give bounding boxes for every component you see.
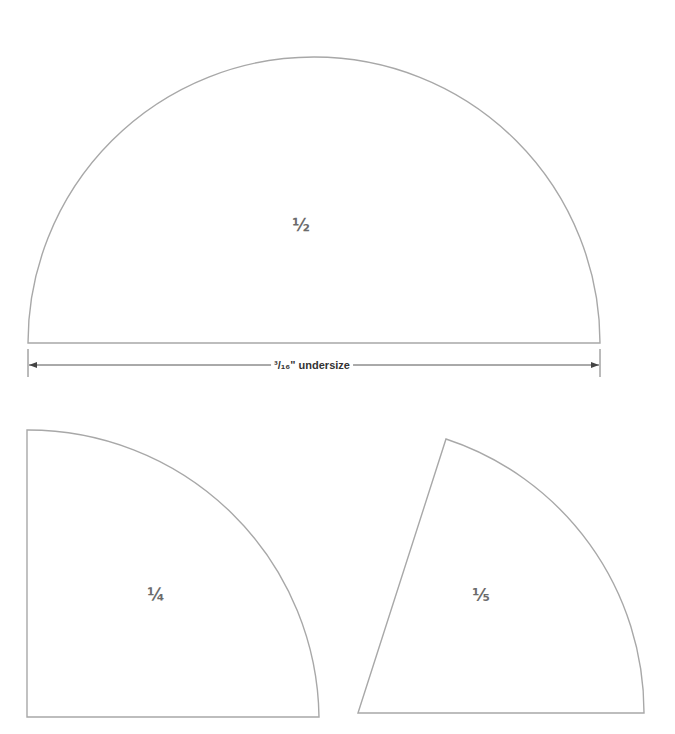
undersize-dimension-label: ³/₁₆" undersize <box>271 359 353 371</box>
half-circle-shape <box>28 57 600 343</box>
arrow-right-icon <box>591 362 599 368</box>
quarter-label: ¼ <box>147 587 165 604</box>
quarter-circle-shape <box>27 430 319 717</box>
arrow-left-icon <box>29 362 37 368</box>
half-label: ½ <box>292 217 310 234</box>
fifth-sector-shape <box>358 439 644 713</box>
fifth-label: ⅕ <box>472 587 490 604</box>
